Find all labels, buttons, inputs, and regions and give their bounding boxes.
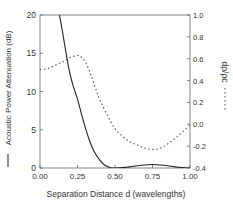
axis-ticks: 0.000.250.500.751.0005101520-0.4-0.20.00… [27,10,206,181]
x-tick-label: 0.00 [32,172,48,181]
x-axis-label: Separation Distance d (wavelengths) [47,189,186,199]
y-right-tick-label: 0.8 [193,33,203,42]
y-right-tick-label: 1.0 [193,11,203,20]
dual-axis-line-chart: 0.000.250.500.751.0005101520-0.4-0.20.00… [0,0,233,202]
chart-container: 0.000.250.500.751.0005101520-0.4-0.20.00… [0,0,233,202]
y-right-tick-label: -0.4 [193,164,206,173]
right-y-axis-label: dρ/ρc [220,61,230,83]
y-right-tick-label: 0.0 [193,120,203,129]
y-left-tick-label: 10 [27,87,37,97]
y-left-tick-label: 20 [27,10,37,20]
left-y-axis-label: Acoustic Power Attenuation (dB) [4,30,13,145]
x-tick-label: 0.25 [70,172,86,181]
x-tick-label: 0.75 [145,172,161,181]
y-right-tick-label: 0.2 [193,98,203,107]
x-tick-label: 0.50 [107,172,123,181]
y-left-tick-label: 15 [27,48,37,58]
attenuation-curve [60,15,191,168]
plot-frame [40,15,190,168]
x-tick-label: 1.00 [182,172,198,181]
y-right-tick-label: 0.4 [193,77,203,86]
y-right-tick-label: -0.2 [193,142,206,151]
data-series [40,15,190,168]
plot-border [40,15,190,168]
density-ratio-curve [40,55,190,149]
y-right-tick-label: 0.6 [193,55,203,64]
y-left-tick-label: 5 [31,125,36,135]
y-left-tick-label: 0 [31,163,36,173]
